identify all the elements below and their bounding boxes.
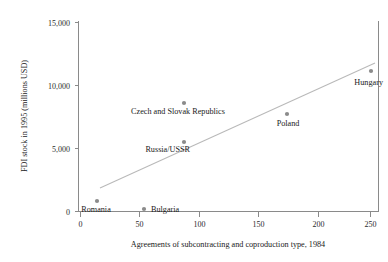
x-tick-label-1: 50 <box>136 220 144 229</box>
x-tick-label-5: 250 <box>365 220 377 229</box>
data-point-czech-and-slovak-republics <box>182 101 186 105</box>
x-tick-label-2: 100 <box>194 220 206 229</box>
y-tick-label-3: 15,000 <box>48 19 70 28</box>
scatter-plot-figure: 15,000 10,000 5,000 0 0 50 100 150 200 2… <box>0 0 388 262</box>
x-axis-title: Agreements of subcontracting and coprodu… <box>131 240 325 249</box>
data-point-poland <box>285 112 289 116</box>
y-axis-title: FDI stock in 1995 (millions USD) <box>20 60 29 172</box>
data-label-czech-and-slovak-republics: Czech and Slovak Republics <box>131 107 225 116</box>
data-label-poland: Poland <box>277 119 300 128</box>
trend-line <box>100 63 375 188</box>
y-tick-label-0: 0 <box>66 208 70 217</box>
data-label-russia-ussr: Russia/USSR <box>145 145 190 154</box>
x-tick-label-3: 150 <box>253 220 265 229</box>
data-point-russia-ussr <box>182 140 186 144</box>
x-tick-marks <box>81 212 371 217</box>
y-tick-label-2: 10,000 <box>48 82 70 91</box>
data-label-hungary: Hungary <box>354 78 384 87</box>
x-tick-label-4: 200 <box>313 220 325 229</box>
data-point-bulgaria <box>142 207 146 211</box>
y-tick-marks <box>75 23 79 212</box>
y-tick-label-1: 5,000 <box>52 145 70 154</box>
data-point-hungary <box>369 69 373 73</box>
data-label-romania: Romania <box>81 205 111 214</box>
data-point-romania <box>95 199 99 203</box>
x-tick-label-0: 0 <box>79 220 83 229</box>
data-label-bulgaria: Bulgaria <box>151 205 180 214</box>
plot-canvas: 15,000 10,000 5,000 0 0 50 100 150 200 2… <box>0 0 388 262</box>
